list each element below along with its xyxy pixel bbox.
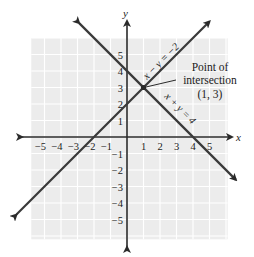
x-tick-label: 3 <box>174 141 179 152</box>
x-axis-label: x <box>235 131 241 143</box>
annotation-coordinates: (1, 3) <box>198 88 223 101</box>
y-tick-label: 3 <box>118 83 123 94</box>
y-tick-label: 4 <box>118 66 124 77</box>
graph-figure: −5−4−3−2−11234554321−1−2−3−4−5 y x x − y… <box>0 0 254 257</box>
annotation-point-of: Point of <box>192 61 229 73</box>
x-tick-label: −3 <box>68 141 79 152</box>
y-tick-label: 1 <box>118 116 123 127</box>
y-tick-label: 2 <box>118 99 123 110</box>
y-axis-label: y <box>122 7 128 19</box>
intersection-point <box>141 85 146 90</box>
x-tick-label: −5 <box>35 141 46 152</box>
y-tick-label: −5 <box>112 215 123 226</box>
y-tick-label: −1 <box>112 149 123 160</box>
x-tick-label: 5 <box>207 141 212 152</box>
annotation-intersection: intersection <box>183 74 237 86</box>
x-tick-label: 1 <box>141 141 146 152</box>
x-tick-label: −2 <box>84 141 95 152</box>
x-tick-label: −1 <box>101 141 112 152</box>
coordinate-plane: −5−4−3−2−11234554321−1−2−3−4−5 y x x − y… <box>0 0 254 257</box>
y-tick-label: 5 <box>118 50 123 61</box>
x-tick-label: −4 <box>51 141 63 152</box>
x-tick-label: 2 <box>157 141 162 152</box>
y-tick-label: −4 <box>112 198 124 209</box>
x-tick-label: 4 <box>190 141 196 152</box>
y-tick-label: −2 <box>112 165 123 176</box>
y-tick-label: −3 <box>112 182 123 193</box>
